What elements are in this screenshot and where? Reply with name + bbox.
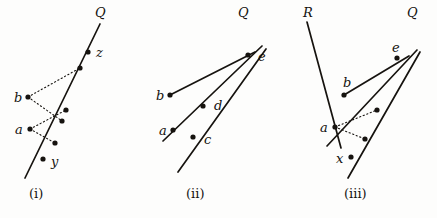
- point-a: [27, 126, 32, 131]
- figure-root: bazyQ(i)bacdeQ(ii)baexRQ(iii): [0, 0, 437, 218]
- panel-iii: [307, 22, 420, 178]
- point-d: [200, 103, 205, 108]
- line-b-to-e: [170, 52, 255, 95]
- point-q-lower: [52, 140, 57, 145]
- line-a-through-d-to-e: [163, 46, 262, 141]
- point-a: [332, 124, 337, 129]
- point-y-dot: [40, 156, 45, 161]
- point-e-label: e: [258, 50, 266, 63]
- point-e: [394, 55, 399, 60]
- point-q-mid-upper: [63, 107, 68, 112]
- point-b-label: b: [14, 91, 22, 104]
- panel-i: [25, 24, 100, 178]
- point-b-label: b: [156, 89, 164, 102]
- point-b: [341, 92, 346, 97]
- point-b: [25, 94, 30, 99]
- line-a-to-e: [327, 50, 417, 146]
- point-q-mid-lower: [59, 118, 64, 123]
- point-a-label: a: [15, 123, 23, 136]
- point-c-label: c: [204, 133, 211, 146]
- point-seg-upper: [374, 107, 379, 112]
- panel-ii-label-Q: Q: [238, 6, 249, 19]
- line-Q: [25, 24, 100, 178]
- point-x: [348, 154, 353, 159]
- point-z-dot: [85, 49, 90, 54]
- point-a-label: a: [159, 124, 167, 137]
- point-x-label: x: [336, 152, 343, 165]
- panel-iii-label-R: R: [303, 6, 313, 19]
- panel-i-label-Q: Q: [95, 6, 106, 19]
- point-a-label: a: [320, 121, 328, 134]
- dotted-a-to-upper: [335, 110, 377, 127]
- point-b: [167, 92, 172, 97]
- point-b-label: b: [343, 76, 351, 89]
- panel-ii-caption: (ii): [186, 187, 204, 200]
- point-q-upper: [77, 65, 82, 70]
- point-z-dot-label: z: [96, 46, 103, 59]
- point-c: [190, 134, 195, 139]
- panel-iii-caption: (iii): [344, 187, 367, 200]
- point-y-dot-label: y: [51, 155, 58, 168]
- point-e-label: e: [392, 41, 400, 54]
- panel-iii-label-Q: Q: [407, 6, 418, 19]
- point-seg-lower: [362, 136, 367, 141]
- point-a: [170, 127, 175, 132]
- point-d-label: d: [214, 99, 222, 112]
- dotted-b-to-lower: [28, 97, 62, 121]
- panel-i-caption: (i): [29, 187, 43, 200]
- point-e: [245, 52, 250, 57]
